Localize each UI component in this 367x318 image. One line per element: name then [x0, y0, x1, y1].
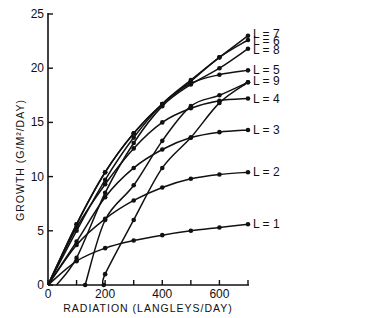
data-point	[103, 272, 108, 277]
data-point	[246, 96, 251, 101]
data-point	[189, 82, 194, 87]
series-tag: L = 1	[253, 217, 280, 231]
data-point	[217, 225, 222, 230]
data-point	[101, 283, 106, 288]
x-axis-label: RADIATION (LANGLEYS/DAY)	[63, 302, 232, 314]
x-axis-ticks: 0200400600	[45, 280, 248, 301]
data-point	[74, 256, 79, 261]
series-tag: L = 4	[253, 92, 280, 106]
data-point	[189, 176, 194, 181]
data-point	[131, 166, 136, 171]
data-point	[103, 178, 108, 183]
data-point	[160, 166, 165, 171]
y-tick-label: 10	[31, 170, 45, 184]
data-point	[217, 93, 222, 98]
data-point	[131, 183, 136, 188]
data-point	[103, 246, 108, 251]
series-labels: L = 7L = 6L = 8L = 5L = 9L = 4L = 3L = 2…	[253, 27, 280, 232]
data-point	[217, 66, 222, 71]
data-point	[103, 191, 108, 196]
y-axis-ticks: 0510152025	[31, 7, 53, 292]
data-point	[131, 135, 136, 140]
y-tick-label: 25	[31, 7, 45, 21]
data-point	[74, 229, 79, 234]
data-point	[217, 172, 222, 177]
data-point	[83, 283, 88, 288]
data-point	[103, 218, 108, 223]
data-point	[217, 55, 222, 60]
data-point	[246, 170, 251, 175]
series-tag: L = 2	[253, 165, 280, 179]
data-point	[160, 147, 165, 152]
data-point	[131, 238, 136, 243]
series-tag: L = 3	[253, 123, 280, 137]
data-point	[189, 78, 194, 83]
data-point	[131, 218, 136, 223]
data-point	[131, 141, 136, 146]
data-point	[131, 198, 136, 203]
series-tag: L = 9	[253, 74, 280, 88]
x-tick-label: 0	[45, 287, 52, 301]
data-point	[246, 222, 251, 227]
x-tick-label: 600	[209, 287, 229, 301]
y-tick-label: 15	[31, 115, 45, 129]
data-point	[246, 33, 251, 38]
data-point	[189, 229, 194, 234]
data-point	[189, 104, 194, 109]
data-point	[189, 135, 194, 140]
series-curve	[57, 49, 248, 285]
data-point	[217, 130, 222, 135]
data-point	[74, 222, 79, 227]
data-point	[103, 170, 108, 175]
data-point	[246, 80, 251, 85]
growth-radiation-chart: 0510152025 0200400600 L = 7L = 6L = 8L =…	[0, 0, 367, 318]
data-point	[160, 104, 165, 109]
data-point	[160, 139, 165, 144]
y-tick-label: 20	[31, 61, 45, 75]
y-axis-label: GROWTH (G/M²/DAY)	[14, 99, 26, 221]
y-tick-label: 5	[37, 224, 44, 238]
y-tick-label: 0	[37, 278, 44, 292]
data-point	[246, 68, 251, 73]
x-tick-label: 200	[95, 287, 115, 301]
series-curves	[48, 33, 250, 287]
data-point	[246, 46, 251, 51]
series-tag: L = 8	[253, 43, 280, 57]
data-point	[160, 233, 165, 238]
data-point	[160, 120, 165, 125]
data-point	[160, 185, 165, 190]
data-point	[246, 128, 251, 133]
data-point	[74, 239, 79, 244]
x-tick-label: 400	[152, 287, 172, 301]
data-point	[246, 38, 251, 43]
data-point	[217, 101, 222, 106]
data-point	[217, 72, 222, 77]
